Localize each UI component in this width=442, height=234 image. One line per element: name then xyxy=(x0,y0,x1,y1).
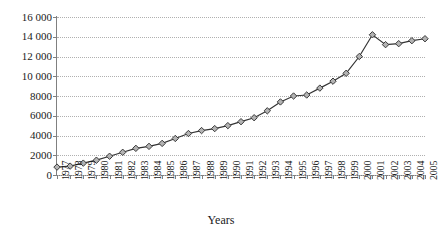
x-axis-tick-label: 1991 xyxy=(245,161,255,180)
x-axis-tick-label: 2002 xyxy=(390,161,400,180)
x-axis-tick-label: 1977 xyxy=(61,161,71,180)
data-point-marker xyxy=(330,78,336,84)
x-axis-title: Years xyxy=(0,214,442,226)
data-point-marker xyxy=(290,93,296,99)
x-axis-tick-label: 2004 xyxy=(416,161,426,180)
data-point-marker xyxy=(238,118,244,124)
data-point-marker xyxy=(304,92,310,98)
data-point-markers xyxy=(54,32,428,171)
x-axis-tick-label: 1993 xyxy=(271,161,281,180)
x-axis-tick-label: 1990 xyxy=(232,161,242,180)
x-axis-tick-label: 2003 xyxy=(403,161,413,180)
x-axis-tick-label: 1995 xyxy=(298,161,308,180)
x-axis-tick-label: 1989 xyxy=(219,161,229,180)
x-axis-tick-label: 1994 xyxy=(284,161,294,180)
x-axis-tick-label: 1978 xyxy=(74,161,84,180)
x-axis-tick-label: 1988 xyxy=(206,161,216,180)
x-axis-tick-label: 1999 xyxy=(350,161,360,180)
x-axis-tick-label: 2005 xyxy=(429,161,439,180)
x-axis-tick-label: 1992 xyxy=(258,161,268,180)
data-point-marker xyxy=(264,108,270,114)
data-point-marker xyxy=(198,127,204,133)
x-axis-tick-label: 1984 xyxy=(153,161,163,180)
x-axis-tick-label: 1985 xyxy=(166,161,176,180)
y-axis-tick-label: 0 xyxy=(4,170,52,181)
x-axis-tick-label: 1996 xyxy=(311,161,321,180)
x-axis-tick-label: 1986 xyxy=(179,161,189,180)
y-axis-tick-label: 14 000 xyxy=(4,31,52,42)
data-point-marker xyxy=(133,145,139,151)
plot-area xyxy=(57,17,425,175)
x-axis-tick-label: 1982 xyxy=(127,161,137,180)
data-point-marker xyxy=(120,149,126,155)
x-axis-tick-label: 1998 xyxy=(337,161,347,180)
x-axis-tick-label: 1983 xyxy=(140,161,150,180)
x-axis-tick-label: 1980 xyxy=(100,161,110,180)
y-axis-tick-label: 6000 xyxy=(4,110,52,121)
data-point-marker xyxy=(277,99,283,105)
x-axis-tick-label: 2000 xyxy=(363,161,373,180)
line-chart: 0200040006000800010 00012 00014 00016 00… xyxy=(0,0,442,234)
y-axis-tick-label: 12 000 xyxy=(4,51,52,62)
data-point-marker xyxy=(409,38,415,44)
y-axis-tick-label: 16 000 xyxy=(4,12,52,23)
x-axis-tick-label: 1987 xyxy=(192,161,202,180)
x-axis-tick xyxy=(57,175,58,179)
data-point-marker xyxy=(396,40,402,46)
series-line xyxy=(57,35,425,167)
y-axis-tick-label: 2000 xyxy=(4,150,52,161)
data-point-marker xyxy=(225,122,231,128)
y-axis-tick-label: 4000 xyxy=(4,130,52,141)
x-axis-tick-label: 1979 xyxy=(87,161,97,180)
data-point-marker xyxy=(159,140,165,146)
data-point-marker xyxy=(106,153,112,159)
y-axis-tick-label: 8000 xyxy=(4,91,52,102)
data-point-marker xyxy=(146,143,152,149)
y-axis-tick-labels: 0200040006000800010 00012 00014 00016 00… xyxy=(0,0,52,234)
x-axis-tick-label: 1997 xyxy=(324,161,334,180)
data-point-marker xyxy=(212,125,218,131)
data-point-marker xyxy=(251,115,257,121)
data-point-marker xyxy=(172,135,178,141)
data-point-marker xyxy=(422,36,428,42)
y-axis-tick-label: 10 000 xyxy=(4,71,52,82)
data-point-marker xyxy=(317,85,323,91)
data-point-marker xyxy=(185,130,191,136)
data-series xyxy=(57,17,425,175)
x-axis-tick-label: 1981 xyxy=(114,161,124,180)
x-axis-tick-label: 2001 xyxy=(376,161,386,180)
